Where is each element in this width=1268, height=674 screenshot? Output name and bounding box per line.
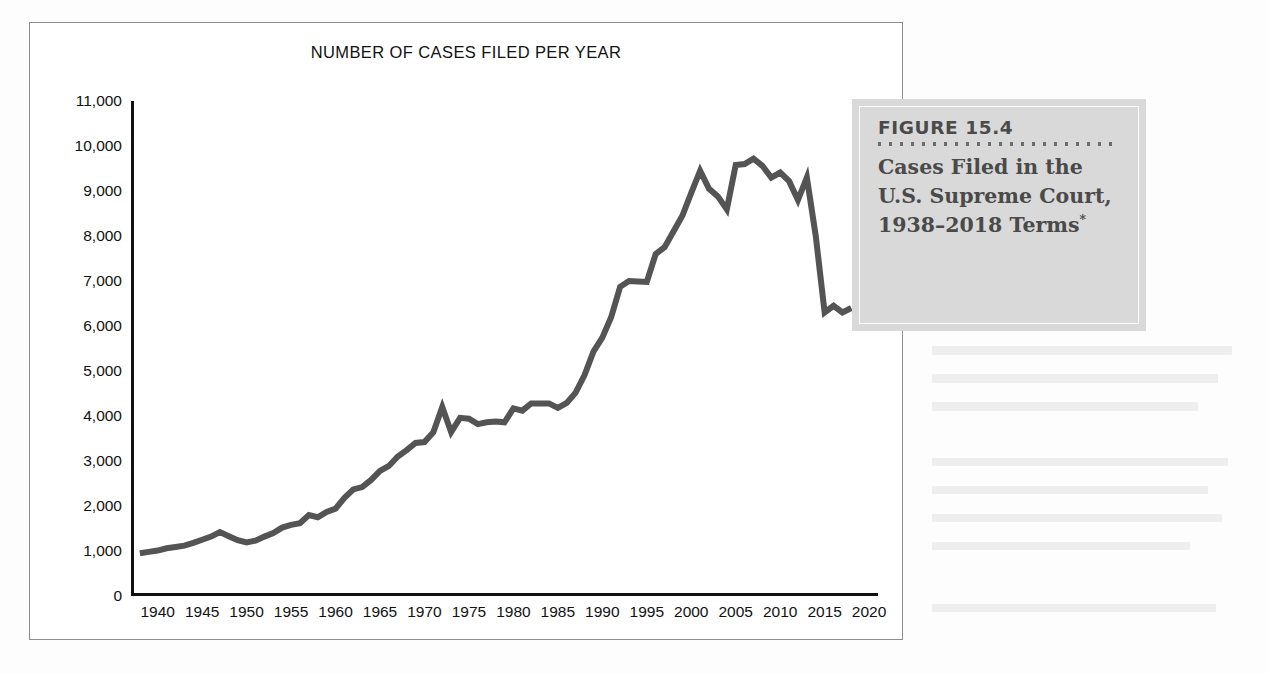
caption-dot	[1021, 142, 1024, 145]
x-tick-label: 2015	[807, 603, 841, 621]
x-tick-label: 1960	[318, 603, 352, 621]
x-tick-label: 1970	[407, 603, 441, 621]
caption-dot	[955, 142, 958, 145]
caption-dot	[977, 142, 980, 145]
caption-dot	[1043, 142, 1046, 145]
x-tick-label: 1990	[585, 603, 619, 621]
caption-dot	[922, 142, 925, 145]
y-tick-label: 9,000	[83, 182, 122, 200]
plot-area: 01,0002,0003,0004,0005,0006,0007,0008,00…	[131, 101, 878, 596]
y-tick-label: 10,000	[75, 137, 122, 155]
caption-dot	[889, 142, 892, 145]
cases-filed-line-series	[131, 101, 878, 596]
caption-dot	[944, 142, 947, 145]
caption-dot	[1054, 142, 1057, 145]
x-tick-label: 1955	[274, 603, 308, 621]
figure-number-label: FIGURE 15.4	[878, 118, 1124, 138]
y-tick-label: 0	[113, 587, 122, 605]
x-tick-label: 1940	[140, 603, 174, 621]
caption-dot	[988, 142, 991, 145]
x-tick-label: 2000	[674, 603, 708, 621]
caption-dot	[966, 142, 969, 145]
figure-caption-box: FIGURE 15.4 Cases Filed in the U.S. Supr…	[852, 99, 1146, 331]
x-tick-label: 1950	[229, 603, 263, 621]
x-tick-label: 1985	[541, 603, 575, 621]
caption-dot	[999, 142, 1002, 145]
y-tick-label: 6,000	[83, 317, 122, 335]
figure-caption-title: Cases Filed in the U.S. Supreme Court, 1…	[878, 153, 1124, 240]
y-tick-label: 2,000	[83, 497, 122, 515]
caption-footnote-marker: *	[1080, 212, 1086, 227]
y-tick-label: 11,000	[76, 92, 122, 110]
caption-dot	[1010, 142, 1013, 145]
y-tick-label: 4,000	[83, 407, 122, 425]
caption-dot	[933, 142, 936, 145]
figure-page: NUMBER OF CASES FILED PER YEAR 01,0002,0…	[0, 0, 1268, 674]
y-tick-label: 5,000	[83, 362, 122, 380]
x-tick-label: 2005	[718, 603, 752, 621]
caption-dot	[1065, 142, 1068, 145]
y-tick-label: 3,000	[83, 452, 122, 470]
caption-dotted-divider	[878, 142, 1124, 145]
caption-dot	[878, 142, 881, 145]
y-tick-label: 7,000	[83, 272, 122, 290]
caption-dot	[1109, 142, 1112, 145]
caption-dot	[1087, 142, 1090, 145]
x-tick-label: 1945	[185, 603, 219, 621]
x-tick-label: 1975	[452, 603, 486, 621]
x-tick-label: 2020	[852, 603, 886, 621]
caption-dot	[900, 142, 903, 145]
x-tick-label: 1995	[630, 603, 664, 621]
caption-dot	[1032, 142, 1035, 145]
figure-frame: NUMBER OF CASES FILED PER YEAR 01,0002,0…	[29, 22, 903, 640]
caption-title-tail: Terms	[1010, 213, 1080, 237]
y-tick-label: 1,000	[83, 542, 122, 560]
caption-dot	[911, 142, 914, 145]
x-tick-label: 2010	[763, 603, 797, 621]
caption-dot	[1098, 142, 1101, 145]
x-tick-label: 1965	[363, 603, 397, 621]
x-tick-label: 1980	[496, 603, 530, 621]
y-tick-label: 8,000	[83, 227, 122, 245]
chart-title: NUMBER OF CASES FILED PER YEAR	[30, 43, 902, 62]
caption-dot	[1076, 142, 1079, 145]
